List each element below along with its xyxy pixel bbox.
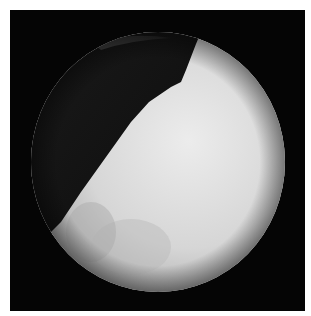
image-frame (10, 10, 305, 311)
tissue-scene (31, 32, 285, 292)
endoscope-view (31, 32, 285, 292)
